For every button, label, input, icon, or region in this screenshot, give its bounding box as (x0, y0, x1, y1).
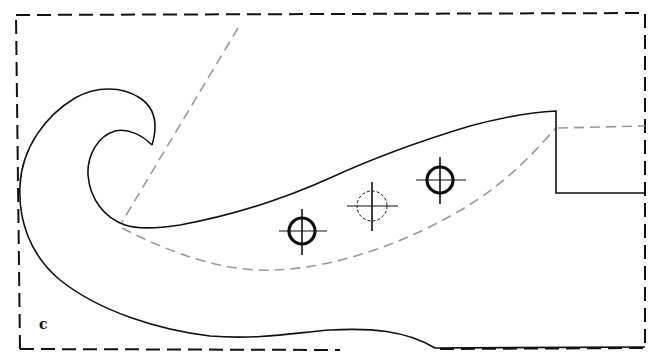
bounding-border-bottom (20, 349, 340, 350)
figure-label: c (39, 316, 48, 332)
hole-right-icon (416, 157, 466, 204)
construction-line-diagonal (122, 28, 238, 222)
bounding-border (16, 13, 645, 349)
construction-line-tenon (558, 126, 645, 128)
part-outline (20, 89, 645, 348)
hole-left-icon (279, 209, 327, 255)
pattern-drawing (0, 0, 653, 364)
hole-center-icon (347, 182, 398, 231)
construction-line-curve (122, 128, 556, 270)
